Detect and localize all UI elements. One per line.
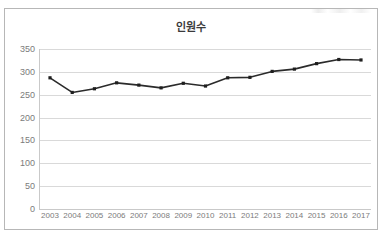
data-point-marker	[204, 84, 207, 87]
y-axis-tick-label: 300	[20, 67, 35, 76]
line-series-svg	[40, 49, 371, 209]
x-axis-tick-label: 2005	[86, 212, 104, 220]
chart-container: 인원수 050100150200250300350 20032004200520…	[4, 8, 378, 230]
x-axis-tick-label: 2010	[197, 212, 215, 220]
x-axis-ticks: 2003200420052006200720082009201020112012…	[40, 212, 371, 226]
y-axis-tick-label: 200	[20, 113, 35, 122]
y-axis-tick-label: 350	[20, 45, 35, 54]
y-axis-tick-label: 150	[20, 136, 35, 145]
top-edge-artifact	[311, 9, 371, 13]
y-axis-tick-label: 250	[20, 90, 35, 99]
x-axis-tick-label: 2006	[108, 212, 126, 220]
data-point-marker	[293, 68, 296, 71]
data-point-marker	[337, 58, 340, 61]
y-axis-tick-label: 100	[20, 159, 35, 168]
x-axis-tick-label: 2008	[152, 212, 170, 220]
x-axis-tick-label: 2016	[330, 212, 348, 220]
data-point-marker	[271, 70, 274, 73]
data-point-marker	[182, 82, 185, 85]
x-axis-tick-label: 2013	[263, 212, 281, 220]
data-point-marker	[48, 76, 51, 79]
data-point-marker	[159, 86, 162, 89]
x-axis-tick-label: 2011	[219, 212, 236, 220]
x-axis-tick-label: 2017	[352, 212, 370, 220]
chart-title: 인원수	[5, 18, 377, 34]
x-axis-tick-label: 2007	[130, 212, 148, 220]
x-axis-tick-label: 2012	[241, 212, 259, 220]
x-axis-tick-label: 2009	[174, 212, 192, 220]
data-point-marker	[315, 62, 318, 65]
data-point-marker	[359, 58, 362, 61]
x-axis-tick-label: 2015	[308, 212, 326, 220]
data-point-marker	[137, 84, 140, 87]
x-axis-tick-label: 2004	[63, 212, 81, 220]
x-axis-tick-label: 2014	[285, 212, 303, 220]
y-axis-tick-label: 0	[30, 205, 35, 214]
data-point-marker	[93, 87, 96, 90]
x-axis-tick-label: 2003	[41, 212, 59, 220]
data-point-marker	[226, 76, 229, 79]
data-point-marker	[115, 81, 118, 84]
data-point-marker	[248, 76, 251, 79]
y-axis-tick-label: 50	[25, 182, 35, 191]
plot-area: 050100150200250300350	[40, 49, 371, 209]
gridline	[40, 209, 371, 210]
data-point-marker	[71, 91, 74, 94]
